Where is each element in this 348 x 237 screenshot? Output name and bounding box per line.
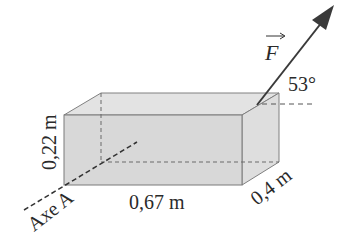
force-label: F bbox=[264, 40, 279, 65]
force-vector-label: F bbox=[264, 33, 285, 65]
force-arrow-head bbox=[312, 5, 334, 30]
axis-label: Axe A bbox=[23, 186, 78, 235]
box-front-face bbox=[64, 115, 242, 185]
height-label: 0,22 m bbox=[38, 114, 60, 170]
length-label: 0,67 m bbox=[129, 191, 185, 213]
angle-label: 53° bbox=[288, 73, 316, 95]
box-force-diagram: F 53° 0,22 m 0,67 m 0,4 m Axe A bbox=[0, 0, 348, 237]
